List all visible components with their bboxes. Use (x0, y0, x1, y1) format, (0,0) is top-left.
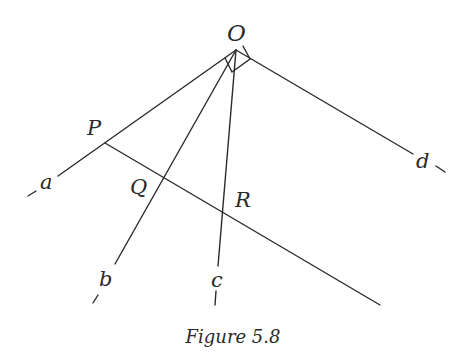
figure-caption: Figure 5.8 (0, 326, 466, 347)
ray-c-tail (215, 291, 216, 305)
ray-d-tail (436, 166, 445, 172)
point-label-P: P (87, 118, 101, 139)
ray-a-tail (28, 191, 36, 196)
ray-c (218, 50, 236, 266)
point-label-Q: Q (130, 177, 147, 198)
ray-b (115, 50, 236, 264)
ray-label-c: c (211, 270, 223, 291)
right-angle-marker (225, 46, 250, 72)
point-label-R: R (235, 190, 251, 211)
point-label-O: O (227, 22, 246, 45)
ray-label-d: d (416, 151, 429, 172)
ray-d (236, 50, 413, 154)
transversal-PR (105, 143, 380, 305)
ray-a (58, 50, 236, 176)
ray-b-tail (93, 295, 98, 303)
geometry-figure (0, 0, 466, 356)
ray-label-a: a (40, 172, 53, 193)
ray-label-b: b (99, 269, 112, 290)
